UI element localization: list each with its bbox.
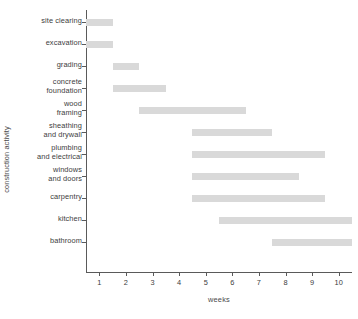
y-axis-tick (82, 132, 86, 133)
x-axis-tick (259, 272, 260, 276)
x-axis-tick-label: 1 (89, 278, 109, 287)
y-axis-tick (82, 242, 86, 243)
x-axis-tick-labels: 12345678910 (86, 278, 352, 289)
gantt-bar[interactable] (86, 41, 113, 48)
x-axis-tick-label: 3 (143, 278, 163, 287)
gantt-bar[interactable] (139, 107, 245, 114)
gantt-bar[interactable] (86, 19, 113, 26)
y-axis-tick-label-line: and electrical (14, 153, 82, 162)
gantt-bar[interactable] (192, 129, 272, 136)
y-axis-tick-label: bathroom (14, 237, 82, 246)
x-axis-tick (126, 272, 127, 276)
gantt-bar[interactable] (272, 239, 352, 246)
x-axis-tick (232, 272, 233, 276)
x-axis-title: weeks (86, 295, 352, 304)
gantt-chart: construction activity site clearingexcav… (0, 0, 358, 319)
y-axis-tick-label-line: kitchen (14, 215, 82, 224)
y-axis-tick-label-line: and doors (14, 175, 82, 184)
y-axis-tick-label: concretefoundation (14, 78, 82, 95)
x-axis-tick-label: 5 (196, 278, 216, 287)
x-axis-tick-label: 7 (249, 278, 269, 287)
x-axis-tick (179, 272, 180, 276)
x-axis-tick-label: 6 (222, 278, 242, 287)
y-axis-tick-label-line: grading (14, 61, 82, 70)
x-axis-tick-label: 2 (116, 278, 136, 287)
y-axis-tick (82, 88, 86, 89)
y-axis-tick-label: site clearing (14, 17, 82, 26)
gantt-bar[interactable] (192, 195, 325, 202)
y-axis-title: construction activity (0, 0, 14, 319)
x-axis-tick-label: 8 (276, 278, 296, 287)
y-axis-tick-label: sheathingand drywall (14, 122, 82, 139)
y-axis-tick-label-line: bathroom (14, 237, 82, 246)
y-axis-tick (82, 220, 86, 221)
y-axis-tick-label: woodframing (14, 100, 82, 117)
y-axis-tick-labels: site clearingexcavationgradingconcretefo… (14, 10, 82, 272)
y-axis-tick-label-line: site clearing (14, 17, 82, 26)
gantt-bar[interactable] (113, 63, 140, 70)
gantt-bar[interactable] (192, 151, 325, 158)
plot-area (86, 10, 352, 272)
y-axis-tick-label: kitchen (14, 215, 82, 224)
y-axis-tick (82, 154, 86, 155)
y-axis-tick-label-line: framing (14, 109, 82, 118)
x-axis-tick-label: 4 (169, 278, 189, 287)
y-axis-line (86, 10, 87, 272)
y-axis-tick-label-line: and drywall (14, 131, 82, 140)
y-axis-tick-label-line: carpentry (14, 193, 82, 202)
gantt-bar[interactable] (113, 85, 166, 92)
y-axis-tick (82, 110, 86, 111)
x-axis-tick (312, 272, 313, 276)
y-axis-tick (82, 176, 86, 177)
y-axis-tick-label: carpentry (14, 193, 82, 202)
x-axis-tick (206, 272, 207, 276)
y-axis-tick-label: windowsand doors (14, 166, 82, 183)
y-axis-tick-label: grading (14, 61, 82, 70)
x-axis-tick-label: 10 (329, 278, 349, 287)
x-axis-tick (99, 272, 100, 276)
x-axis-tick (153, 272, 154, 276)
y-axis-tick-label-line: foundation (14, 87, 82, 96)
y-axis-tick-label: plumbingand electrical (14, 144, 82, 161)
gantt-bar[interactable] (219, 217, 352, 224)
x-axis-tick-label: 9 (302, 278, 322, 287)
y-axis-tick-label: excavation (14, 39, 82, 48)
y-axis-tick-label-line: excavation (14, 39, 82, 48)
x-axis-tick (286, 272, 287, 276)
x-axis-ticks (86, 272, 352, 277)
y-axis-tick (82, 198, 86, 199)
x-axis-tick (339, 272, 340, 276)
gantt-bar[interactable] (192, 173, 298, 180)
y-axis-tick (82, 66, 86, 67)
